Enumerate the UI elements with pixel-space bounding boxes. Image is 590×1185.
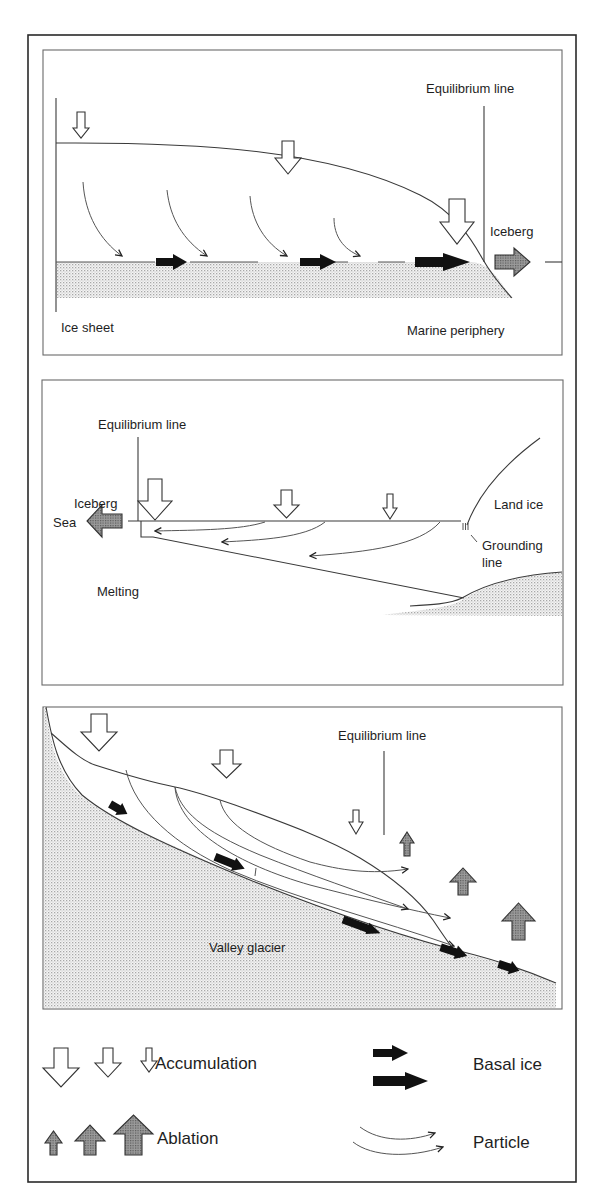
valley-bedrock [44,707,556,1008]
ablation-arrow-large [502,903,535,940]
particle-path-1 [155,522,265,531]
label-grounding-line-2: line [482,555,502,570]
label-equilibrium-line: Equilibrium line [338,728,426,743]
label-marine-periphery: Marine periphery [407,323,505,338]
particle-path-3 [250,196,287,256]
seabed-sediment [383,572,562,616]
accumulation-arrow-large [138,479,172,520]
iceberg-arrow [495,248,530,276]
legend-ablation-medium-icon [75,1125,105,1155]
glacier-flow-diagram: Equilibrium line Iceberg Ice sheet Marin… [0,0,590,1185]
label-equilibrium-line: Equilibrium line [98,417,186,432]
accumulation-arrow-small [383,494,397,519]
accumulation-arrow-medium [212,750,241,778]
legend-accumulation-large-icon [43,1048,79,1087]
legend-basal-ice-label: Basal ice [473,1055,542,1074]
panel-valley-glacier: Equilibrium line Valley glacier [43,707,562,1009]
legend: Accumulation Ablation Basal ice Particle [43,1045,542,1155]
legend-particle-icon-2 [353,1142,443,1154]
accumulation-arrow-small [349,810,363,834]
grounding-leader [471,535,477,542]
accumulation-arrow-small [73,112,89,138]
legend-accumulation-medium-icon [95,1048,121,1077]
particle-path-2 [167,190,207,256]
legend-ablation-large-icon [114,1115,153,1155]
legend-particle-label: Particle [473,1133,530,1152]
legend-accumulation-label: Accumulation [155,1054,257,1073]
label-sea: Sea [53,515,77,530]
accumulation-arrow-medium [274,490,299,518]
accumulation-arrow-large [81,714,117,751]
label-iceberg: Iceberg [74,496,117,511]
label-melting: Melting [97,584,139,599]
label-ice-sheet: Ice sheet [61,320,114,335]
legend-ablation-label: Ablation [157,1129,218,1148]
particle-path-4 [334,218,360,256]
label-equilibrium-line: Equilibrium line [426,81,514,96]
label-land-ice: Land ice [494,497,543,512]
legend-basal-ice-icon-1 [373,1045,408,1061]
label-valley-glacier: Valley glacier [209,940,286,955]
label-iceberg: Iceberg [490,224,533,239]
legend-particle-icon-1 [360,1127,435,1139]
panel-ice-sheet: Equilibrium line Iceberg Ice sheet Marin… [43,50,562,355]
ablation-arrow-medium [450,868,476,895]
accumulation-arrow-medium [275,141,301,174]
panel-ice-shelf: Equilibrium line Iceberg Sea Land ice Gr… [42,380,563,685]
ablation-arrow-small [400,832,414,856]
crack-mark [255,868,256,876]
particle-path-2 [222,522,325,542]
legend-basal-ice-icon-2 [373,1072,428,1090]
label-grounding-line: Grounding [482,538,543,553]
legend-ablation-small-icon [45,1131,62,1155]
particle-path-3 [310,522,440,556]
particle-path-1 [83,182,122,256]
